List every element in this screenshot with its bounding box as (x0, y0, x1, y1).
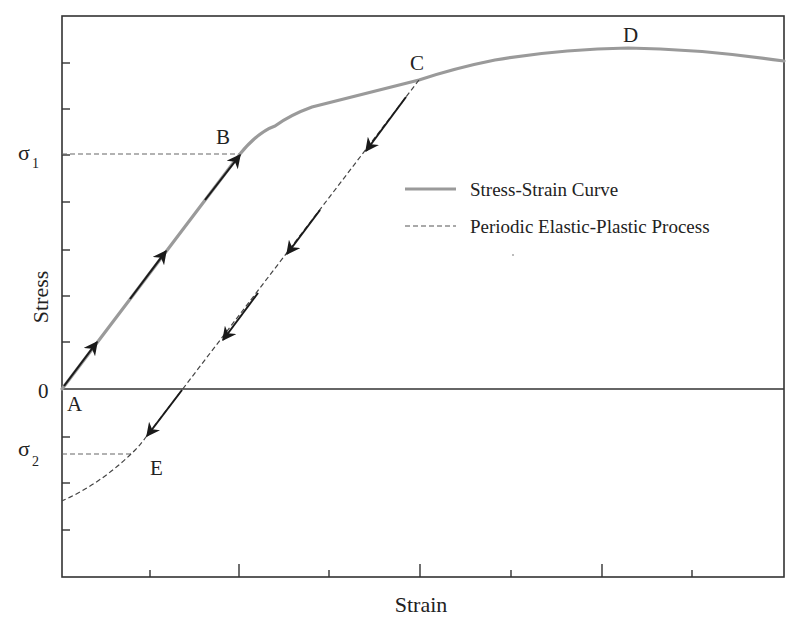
svg-text:1: 1 (32, 156, 39, 171)
svg-text:σ: σ (18, 140, 30, 165)
point-label-b: B (216, 125, 230, 149)
point-label-a: A (67, 392, 83, 416)
point-label-d: D (623, 23, 638, 47)
periodic-process-line (62, 80, 419, 501)
sigma1-label: σ 1 (18, 140, 39, 171)
zero-label: 0 (38, 379, 49, 403)
loading-arrows (64, 155, 240, 386)
legend-label-curve: Stress-Strain Curve (470, 179, 618, 200)
x-axis-title: Strain (395, 592, 448, 617)
legend: Stress-Strain Curve Periodic Elastic-Pla… (405, 179, 710, 237)
stress-strain-diagram: A B C D E 0 σ 1 σ 2 Stress Strain Stress… (0, 0, 797, 631)
y-axis-title: Stress (28, 271, 53, 324)
legend-label-dashed: Periodic Elastic-Plastic Process (470, 216, 710, 237)
stray-dot (512, 254, 514, 256)
svg-text:σ: σ (18, 436, 30, 461)
y-axis-ticks (62, 63, 70, 530)
point-label-e: E (150, 456, 163, 480)
point-label-c: C (410, 51, 424, 75)
x-axis-ticks (150, 564, 692, 577)
svg-text:2: 2 (32, 454, 39, 469)
sigma2-label: σ 2 (18, 436, 39, 469)
plot-frame (62, 16, 784, 577)
